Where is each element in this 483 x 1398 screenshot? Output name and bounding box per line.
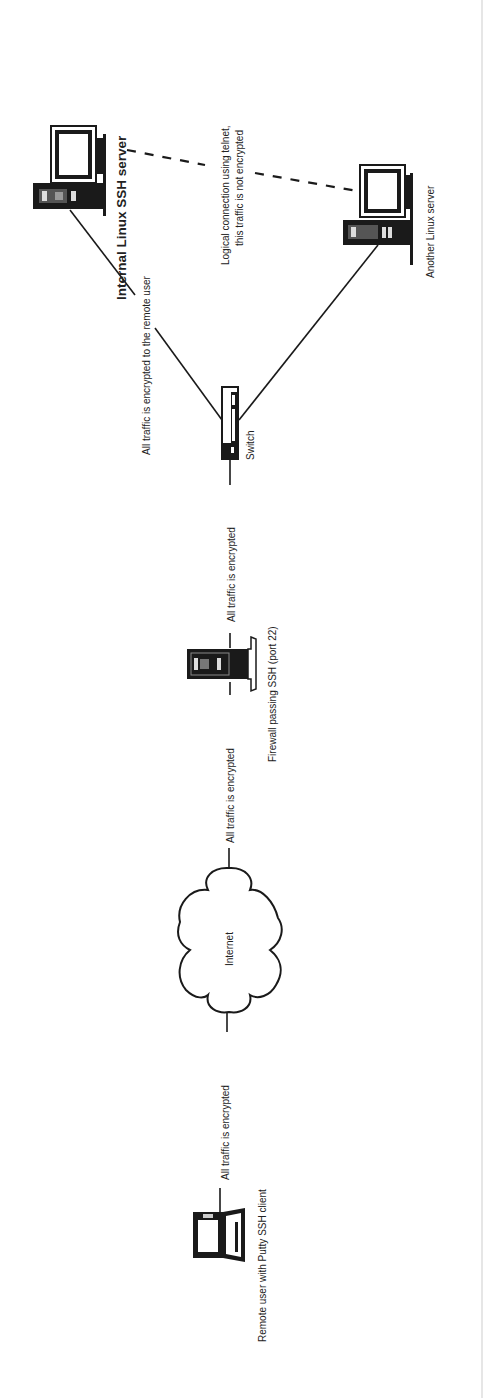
switch-icon[interactable]	[222, 387, 238, 459]
remote-user-label: Remote user with Putty SSH client	[257, 1189, 268, 1342]
telnet-label-line1: Logical connection using telnet,	[220, 125, 231, 265]
another-server-label: Another Linux server	[425, 185, 436, 278]
edge-switch-internal-lower	[155, 328, 222, 420]
edge-label-laptop-to-internet: All traffic is encrypted	[220, 1085, 231, 1180]
edge-label-firewall-to-switch: All traffic is encrypted	[226, 527, 237, 622]
edge-switch-another	[239, 245, 378, 420]
edge-label-encrypted-to-remote-user: All traffic is encrypted to the remote u…	[141, 276, 152, 455]
connection-lines	[70, 150, 378, 1212]
telnet-label-line2: this traffic is not encrypted	[234, 130, 245, 246]
internet-label: Internet	[224, 932, 235, 966]
internal-server-label: Internal Linux SSH server	[114, 135, 129, 300]
another-server-icon[interactable]	[343, 165, 413, 265]
edge-telnet-dashed-b	[255, 173, 357, 191]
firewall-label: Firewall passing SSH (port 22)	[267, 626, 278, 762]
edge-label-internet-to-firewall: All traffic is encrypted	[225, 748, 236, 843]
laptop-icon[interactable]	[193, 1208, 245, 1262]
labels: Internal Linux SSH server All traffic is…	[114, 125, 436, 1342]
network-diagram: Internal Linux SSH server All traffic is…	[0, 0, 483, 1398]
internal-server-icon[interactable]	[33, 126, 106, 216]
firewall-icon[interactable]	[187, 637, 256, 691]
edge-telnet-dashed-a	[127, 150, 205, 165]
switch-label: Switch	[245, 431, 256, 460]
